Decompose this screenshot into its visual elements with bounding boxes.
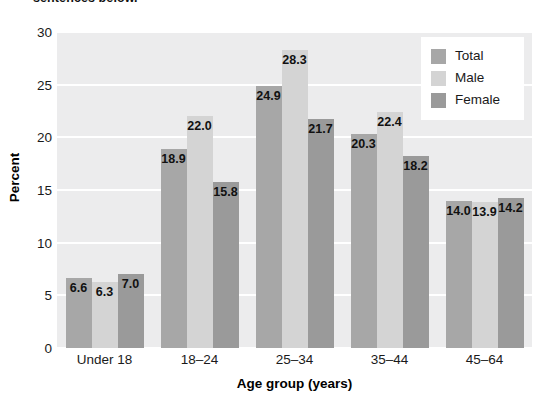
legend-label: Male (455, 71, 484, 85)
x-tick-label: Under 18 (77, 352, 133, 367)
bar (187, 116, 213, 348)
legend-label: Female (455, 93, 500, 107)
bar-value-label: 20.3 (351, 137, 375, 151)
bar-value-label: 22.0 (187, 119, 211, 133)
bar-value-label: 14.2 (498, 201, 522, 215)
legend-swatch-icon (431, 71, 446, 86)
bar-value-label: 18.2 (403, 159, 427, 173)
y-tick-label: 25 (0, 77, 52, 92)
bar-value-label: 7.0 (122, 277, 139, 291)
legend-swatch-icon (431, 49, 446, 64)
bar (446, 201, 472, 348)
bar-value-label: 28.3 (282, 53, 306, 67)
bar (351, 134, 377, 348)
y-tick-label: 5 (0, 288, 52, 303)
bar (498, 198, 524, 348)
bar-chart: 6.66.37.018.922.015.824.928.321.720.322.… (0, 0, 543, 411)
x-axis: Under 1818–2425–3435–4445–64 (57, 352, 532, 372)
bar-value-label: 6.6 (70, 281, 87, 295)
x-tick-label: 25–34 (276, 352, 314, 367)
bar (377, 112, 403, 348)
y-tick-label: 10 (0, 235, 52, 250)
legend-swatch-icon (431, 93, 446, 108)
bar-value-label: 13.9 (472, 205, 496, 219)
y-axis-title: Percent (7, 138, 22, 218)
bar-value-label: 21.7 (308, 122, 332, 136)
bar-value-label: 6.3 (96, 285, 113, 299)
x-tick-label: 18–24 (181, 352, 219, 367)
bar-value-label: 18.9 (161, 152, 185, 166)
bar (213, 182, 239, 348)
bar-value-label: 15.8 (213, 185, 237, 199)
bar-value-label: 14.0 (446, 204, 470, 218)
x-axis-title: Age group (years) (57, 376, 532, 391)
bar-value-label: 24.9 (256, 89, 280, 103)
x-tick-label: 45–64 (466, 352, 504, 367)
bar (472, 202, 498, 348)
bar (282, 50, 308, 348)
legend-label: Total (455, 49, 484, 63)
y-tick-label: 0 (0, 341, 52, 356)
bar (403, 156, 429, 348)
legend-item: Female (431, 89, 515, 111)
legend-item: Total (431, 45, 515, 67)
legend: TotalMaleFemale (421, 37, 524, 120)
bar (308, 119, 334, 348)
gridline (57, 31, 532, 33)
bar-value-label: 22.4 (377, 115, 401, 129)
x-tick-label: 35–44 (371, 352, 409, 367)
bar (161, 149, 187, 348)
bar (256, 86, 282, 348)
legend-item: Male (431, 67, 515, 89)
y-tick-label: 30 (0, 25, 52, 40)
